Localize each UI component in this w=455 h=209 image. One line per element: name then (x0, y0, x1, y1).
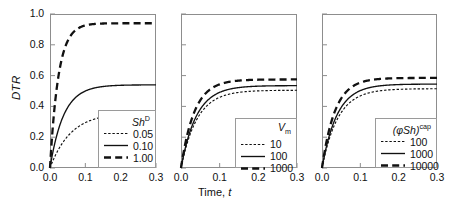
legend-1: ShD0.050.101.00 (98, 110, 156, 168)
legend-entry[interactable]: 1.00 (103, 152, 151, 164)
x-tick-label: 0.0 (307, 171, 337, 183)
y-tick-label: 0.8 (18, 38, 44, 50)
legend-line-sample-solid (103, 140, 129, 151)
legend-line-sample-dashed (240, 163, 266, 174)
legend-entry[interactable]: 1000 (240, 162, 292, 174)
x-tick-label: 0.1 (345, 171, 375, 183)
legend-entry[interactable]: 100 (380, 136, 432, 148)
legend-entry-label: 1.00 (129, 152, 153, 164)
legend-entry[interactable]: 1000 (380, 148, 432, 160)
x-axis-label-text: Time, (198, 186, 228, 198)
x-tick-label: 0.3 (422, 171, 452, 183)
x-axis-label-var: t (228, 186, 231, 198)
legend-title-superscript: D (145, 114, 150, 123)
y-tick-label: 1.0 (18, 7, 44, 19)
x-tick-label: 0.2 (106, 171, 136, 183)
figure-root: DTR 0.00.20.40.60.81.0 0.00.10.20.30.00.… (0, 0, 455, 209)
legend-2-title: Vm (240, 121, 292, 138)
x-tick-label: 0.1 (70, 171, 100, 183)
x-tick-label: 0.2 (384, 171, 414, 183)
legend-entry-label: 100 (406, 136, 427, 148)
legend-line-sample-dashed (380, 160, 406, 171)
legend-line-sample-dotted (380, 136, 406, 147)
legend-title-symbol: (φSh) (393, 124, 420, 136)
legend-entry[interactable]: 0.05 (103, 128, 151, 140)
legend-entry[interactable]: 0.10 (103, 140, 151, 152)
legend-title-symbol: V (278, 121, 285, 133)
legend-line-sample-solid (380, 148, 406, 159)
legend-3-title: (φSh)cap (380, 121, 432, 136)
legend-entry-label: 1000 (266, 162, 293, 174)
y-tick-label: 0.4 (18, 99, 44, 111)
legend-title-subscript: m (285, 127, 291, 136)
legend-line-sample-dotted (240, 139, 266, 150)
legend-entry-label: 10000 (406, 160, 439, 172)
x-axis-label: Time, t (198, 186, 231, 198)
legend-line-sample-dashed (103, 152, 129, 163)
legend-entry[interactable]: 100 (240, 150, 292, 162)
x-tick-label: 0.1 (205, 171, 235, 183)
legend-title-symbol: Sh (132, 116, 145, 128)
y-tick-label: 0.6 (18, 69, 44, 81)
x-tick-label: 0.0 (166, 171, 196, 183)
y-tick-label: 0.2 (18, 130, 44, 142)
legend-2: Vm101001000 (235, 118, 297, 168)
legend-entry-label: 1000 (406, 148, 433, 160)
legend-entry-label: 0.05 (129, 128, 153, 140)
legend-entry-label: 100 (266, 150, 287, 162)
legend-3: (φSh)cap100100010000 (375, 118, 437, 168)
legend-title-superscript: cap (419, 122, 431, 131)
legend-entry[interactable]: 10 (240, 138, 292, 150)
legend-line-sample-dotted (103, 128, 129, 139)
legend-entry-label: 10 (266, 138, 281, 150)
x-tick-label: 0.0 (35, 171, 65, 183)
legend-entry[interactable]: 10000 (380, 160, 432, 172)
legend-1-title: ShD (103, 113, 151, 128)
legend-line-sample-solid (240, 151, 266, 162)
legend-entry-label: 0.10 (129, 140, 153, 152)
